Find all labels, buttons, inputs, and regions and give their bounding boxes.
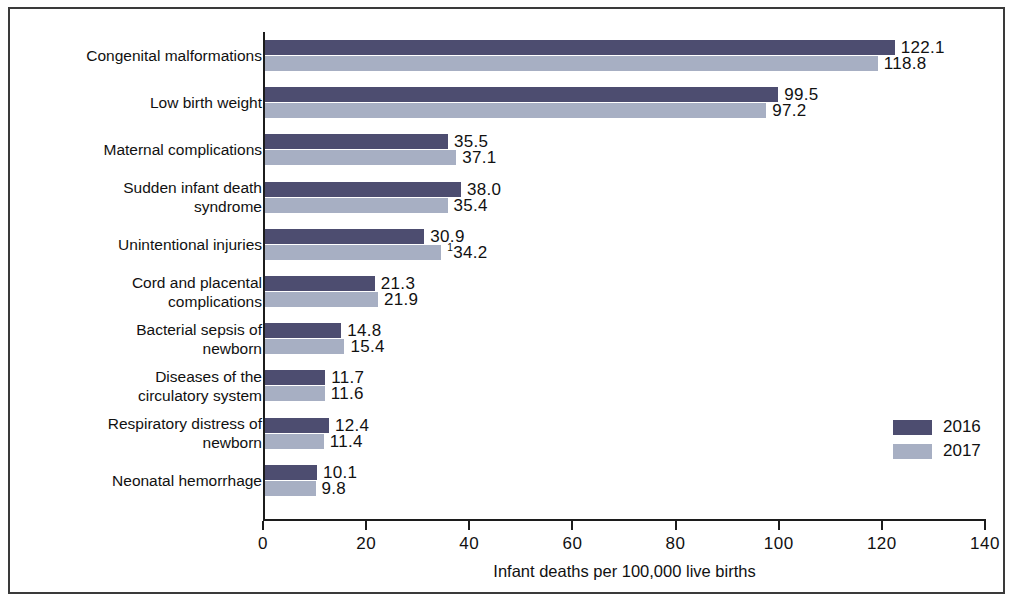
bar-2017 <box>265 434 324 449</box>
bar-2017 <box>265 292 378 307</box>
bar-2016 <box>265 370 325 385</box>
bar-value-label: 11.4 <box>330 433 363 450</box>
bar-value-label: 134.2 <box>447 244 487 261</box>
category-label: Low birth weight <box>0 93 262 112</box>
bar-2016 <box>265 229 424 244</box>
x-axis-tick-label: 120 <box>852 534 912 554</box>
category-label: Neonatal hemorrhage <box>0 471 262 490</box>
category-label: Diseases of thecirculatory system <box>0 367 262 405</box>
bar-2017 <box>265 339 344 354</box>
category-label: Cord and placentalcomplications <box>0 273 262 311</box>
bar-2016 <box>265 182 461 197</box>
bar-value-label: 9.8 <box>322 480 347 497</box>
bar-value-label: 15.4 <box>350 338 384 355</box>
bar-2016 <box>265 465 317 480</box>
x-axis-tick <box>984 521 986 530</box>
bar-2016 <box>265 276 375 291</box>
chart-plot-area: 020406080100120140 Congenital malformati… <box>0 0 1013 603</box>
bar-2016 <box>265 87 778 102</box>
x-axis-tick-label: 20 <box>336 534 396 554</box>
x-axis-tick-label: 80 <box>646 534 706 554</box>
figure-canvas: 020406080100120140 Congenital malformati… <box>0 0 1013 603</box>
x-axis-title: Infant deaths per 100,000 live births <box>263 562 986 581</box>
x-axis-tick <box>675 521 677 530</box>
bar-value-label: 11.6 <box>331 385 364 402</box>
x-axis-tick <box>365 521 367 530</box>
x-axis-tick-label: 60 <box>542 534 602 554</box>
bar-2017 <box>265 103 766 118</box>
legend-label: 2017 <box>943 440 981 462</box>
bar-2016 <box>265 323 341 338</box>
bar-value-label: 118.8 <box>884 55 927 72</box>
bar-2017 <box>265 245 441 260</box>
x-axis-tick <box>778 521 780 530</box>
bar-value-label: 97.2 <box>772 102 806 119</box>
x-axis-tick <box>468 521 470 530</box>
legend-swatch <box>893 420 932 435</box>
category-label: Respiratory distress ofnewborn <box>0 414 262 452</box>
bar-value-label: 37.1 <box>462 149 496 166</box>
x-axis-tick <box>262 521 264 530</box>
bar-2017 <box>265 150 456 165</box>
bar-2017 <box>265 386 325 401</box>
category-label: Bacterial sepsis ofnewborn <box>0 320 262 358</box>
bar-value-label: 35.4 <box>454 197 488 214</box>
bar-2016 <box>265 40 895 55</box>
x-axis-line <box>263 519 986 521</box>
x-axis-tick-label: 140 <box>955 534 1013 554</box>
x-axis-tick-label: 100 <box>749 534 809 554</box>
bar-value-label: 21.9 <box>384 291 418 308</box>
bar-2017 <box>265 198 448 213</box>
bar-2017 <box>265 56 878 71</box>
category-label: Congenital malformations <box>0 46 262 65</box>
x-axis-tick-label: 40 <box>439 534 499 554</box>
category-label: Maternal complications <box>0 140 262 159</box>
category-label: Sudden infant deathsyndrome <box>0 178 262 216</box>
x-axis-tick <box>881 521 883 530</box>
legend-label: 2016 <box>943 416 981 438</box>
bar-2016 <box>265 418 329 433</box>
legend-swatch <box>893 444 932 459</box>
bar-2016 <box>265 134 448 149</box>
bar-2017 <box>265 481 316 496</box>
x-axis-tick <box>571 521 573 530</box>
category-label: Unintentional injuries <box>0 235 262 254</box>
x-axis-tick-label: 0 <box>233 534 293 554</box>
